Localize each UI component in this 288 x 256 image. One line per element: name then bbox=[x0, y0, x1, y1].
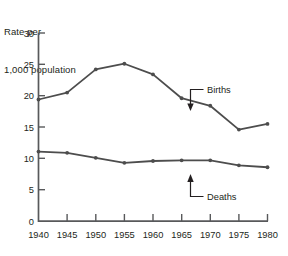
data-point-births-1965 bbox=[180, 96, 184, 100]
y-tick-label-10: 10 bbox=[24, 154, 34, 164]
data-point-deaths-1960 bbox=[151, 159, 155, 163]
x-tick-label-1950: 1950 bbox=[85, 230, 106, 240]
x-tick-label-1980: 1980 bbox=[257, 230, 278, 240]
data-point-births-1940 bbox=[37, 98, 41, 102]
y-tick-label-15: 15 bbox=[24, 123, 34, 133]
y-tick-label-25: 25 bbox=[24, 60, 34, 70]
y-tick-label-0: 0 bbox=[29, 217, 34, 227]
data-point-deaths-1975 bbox=[237, 163, 241, 167]
data-point-deaths-1955 bbox=[122, 161, 126, 165]
y-axis-tick-labels: 30 25 20 15 10 5 0 bbox=[24, 29, 34, 227]
data-point-births-1950 bbox=[94, 67, 98, 71]
annotation-label-deaths: Deaths bbox=[207, 192, 237, 202]
data-point-deaths-1970 bbox=[208, 158, 212, 162]
data-point-deaths-1945 bbox=[65, 151, 69, 155]
data-point-deaths-1950 bbox=[94, 156, 98, 160]
annotation-deaths: Deaths bbox=[187, 174, 237, 202]
x-tick-label-1955: 1955 bbox=[114, 230, 135, 240]
series-births bbox=[37, 62, 270, 132]
y-tick-label-30: 30 bbox=[24, 29, 34, 39]
x-tick-label-1970: 1970 bbox=[200, 230, 221, 240]
x-axis-ticks bbox=[67, 214, 267, 221]
y-axis-ticks bbox=[39, 33, 46, 190]
data-point-births-1970 bbox=[208, 104, 212, 108]
x-tick-label-1960: 1960 bbox=[143, 230, 164, 240]
x-axis-tick-labels: 1940 1945 1950 1955 1960 1965 1970 1975 … bbox=[28, 230, 278, 240]
data-point-births-1955 bbox=[122, 62, 126, 66]
y-tick-label-5: 5 bbox=[29, 185, 34, 195]
data-point-births-1975 bbox=[237, 128, 241, 132]
data-series-layer bbox=[37, 62, 270, 169]
x-tick-label-1945: 1945 bbox=[57, 230, 78, 240]
y-tick-label-20: 20 bbox=[24, 91, 34, 101]
annotation-label-births: Births bbox=[207, 85, 231, 95]
x-tick-label-1965: 1965 bbox=[171, 230, 192, 240]
data-point-births-1945 bbox=[65, 91, 69, 95]
birth-death-rate-line-chart: Rate per 1,000 population 30 25 20 15 10… bbox=[0, 0, 288, 256]
x-tick-label-1940: 1940 bbox=[28, 230, 49, 240]
x-tick-label-1975: 1975 bbox=[229, 230, 250, 240]
data-point-deaths-1940 bbox=[37, 150, 41, 154]
series-deaths bbox=[37, 150, 270, 169]
data-point-deaths-1980 bbox=[266, 165, 270, 169]
chart-canvas: 30 25 20 15 10 5 0 1940 1945 1950 1955 1… bbox=[0, 0, 288, 256]
data-point-deaths-1965 bbox=[180, 158, 184, 162]
data-point-births-1980 bbox=[266, 122, 270, 126]
data-point-births-1960 bbox=[151, 73, 155, 77]
